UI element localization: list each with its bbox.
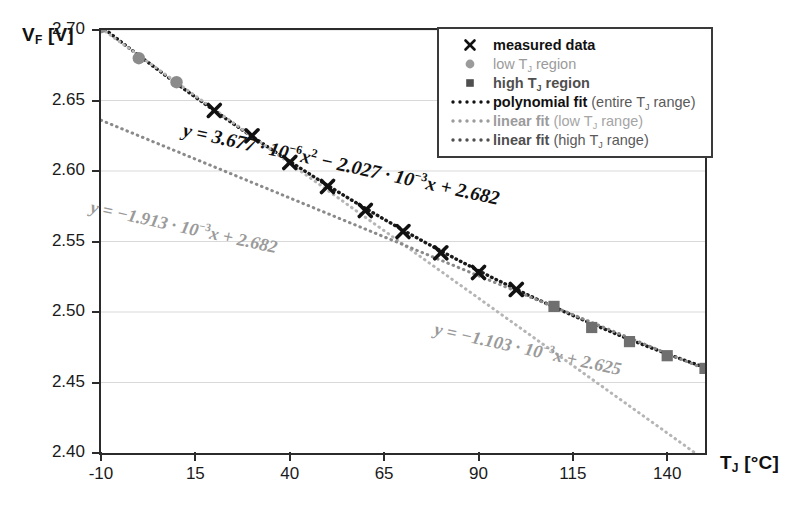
- x-axis-tick: [289, 452, 291, 461]
- data-point-x: [435, 247, 447, 259]
- circle-marker-icon: [447, 57, 493, 71]
- x-axis-symbol: T: [720, 452, 732, 473]
- x-axis-tick-label: 90: [449, 464, 509, 484]
- y-axis-tick: [92, 382, 100, 384]
- y-axis-tick: [92, 100, 100, 102]
- data-point-square: [586, 322, 597, 333]
- legend-item-label: linear fit (low TJ range): [493, 113, 643, 129]
- data-point-square: [548, 301, 559, 312]
- x-axis-tick: [383, 452, 385, 461]
- y-axis-tick: [92, 452, 100, 454]
- dotted-line-icon: [447, 133, 493, 147]
- y-axis-tick-label: 2.50: [25, 301, 85, 321]
- legend-item: low TJ region: [447, 54, 703, 73]
- legend-item-label: high TJ region: [493, 75, 590, 91]
- x-axis-tick: [666, 452, 668, 461]
- x-marker-icon: [447, 38, 493, 52]
- x-axis-tick: [478, 452, 480, 461]
- x-axis-tick-label: 65: [354, 464, 414, 484]
- y-axis-tick-label: 2.70: [25, 19, 85, 39]
- x-axis-tick: [572, 452, 574, 461]
- x-axis-tick: [100, 452, 102, 461]
- legend-item: linear fit (high TJ range): [447, 130, 703, 149]
- x-axis-title: TJ [°C]: [720, 452, 779, 474]
- x-axis-unit: [°C]: [739, 452, 779, 473]
- dotted-line-icon: [447, 95, 493, 109]
- chart-legend: measured datalow TJ regionhigh TJ region…: [437, 27, 713, 158]
- legend-item-label: low TJ region: [493, 56, 576, 72]
- legend-item: polynomial fit (entire TJ range): [447, 92, 703, 111]
- y-axis-tick: [92, 29, 100, 31]
- y-axis-tick-label: 2.45: [25, 372, 85, 392]
- x-axis-tick: [194, 452, 196, 461]
- x-axis-subscript: J: [732, 461, 739, 475]
- y-axis-tick-label: 2.60: [25, 160, 85, 180]
- legend-item: linear fit (low TJ range): [447, 111, 703, 130]
- legend-item: high TJ region: [447, 73, 703, 92]
- data-point-square: [624, 336, 635, 347]
- y-axis-tick: [92, 170, 100, 172]
- data-point-circle: [170, 76, 182, 88]
- data-point-circle: [133, 52, 145, 64]
- data-point-x: [510, 283, 522, 295]
- dotted-line-icon: [447, 114, 493, 128]
- data-point-x: [208, 104, 220, 116]
- x-axis-tick-label: 115: [543, 464, 603, 484]
- square-marker-icon: [447, 76, 493, 90]
- y-axis-tick-label: 2.55: [25, 231, 85, 251]
- chart-page: VF [V] TJ [°C] measured datalow TJ regio…: [0, 0, 804, 513]
- data-point-square: [662, 350, 673, 361]
- y-axis-tick-label: 2.65: [25, 90, 85, 110]
- y-axis-tick: [92, 241, 100, 243]
- legend-item-label: measured data: [493, 37, 595, 53]
- x-axis-tick-label: 40: [260, 464, 320, 484]
- legend-item-label: polynomial fit (entire TJ range): [493, 94, 695, 110]
- legend-item: measured data: [447, 35, 703, 54]
- legend-item-label: linear fit (high TJ range): [493, 132, 649, 148]
- x-axis-tick-label: 140: [637, 464, 697, 484]
- y-axis-tick-label: 2.40: [25, 442, 85, 462]
- x-axis-tick-label: -10: [71, 464, 131, 484]
- x-axis-tick-label: 15: [165, 464, 225, 484]
- data-point-square: [699, 363, 705, 374]
- y-axis-tick: [92, 311, 100, 313]
